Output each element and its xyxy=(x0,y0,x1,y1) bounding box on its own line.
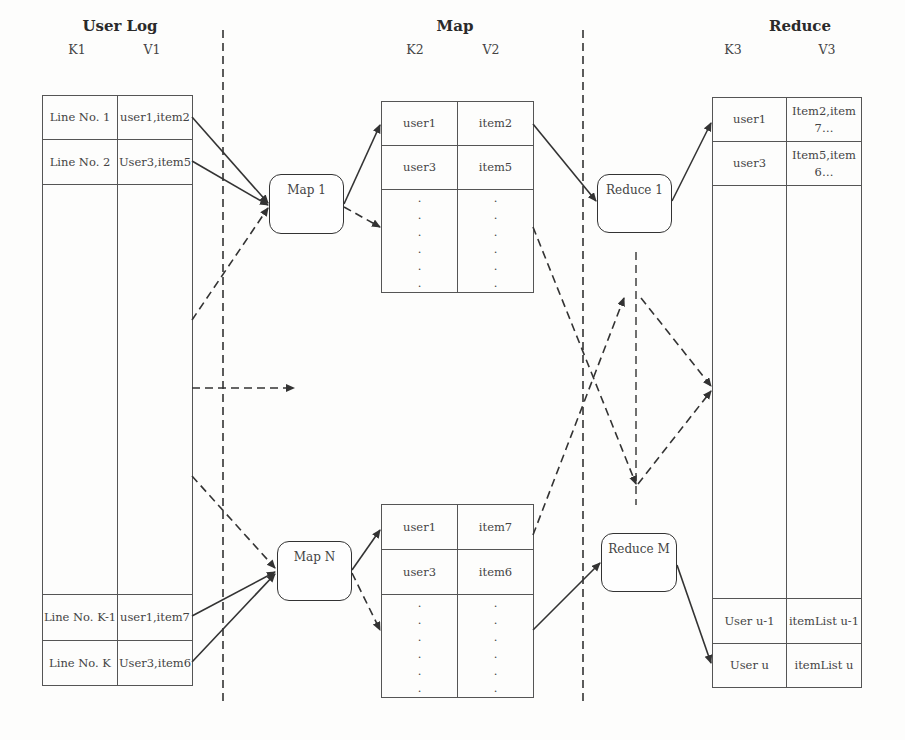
v1-cell: user1,item2 xyxy=(118,96,193,140)
reduce-table: user1 Item2,item7… user3 Item5,item6… Us… xyxy=(712,97,862,688)
k3-header: K3 xyxy=(718,42,748,57)
k1-cell: Line No. K xyxy=(43,641,118,686)
k2-cell: user1 xyxy=(382,505,458,550)
table-row-empty xyxy=(713,186,862,599)
table-row: User u-1 itemList u-1 xyxy=(713,599,862,644)
map-title: Map xyxy=(415,17,495,35)
ellipsis: . . . . . . xyxy=(382,595,458,698)
v1-header: V1 xyxy=(137,42,167,57)
v3-header: V3 xyxy=(812,42,842,57)
v2-cell: item2 xyxy=(458,102,534,146)
table-row: user3 Item5,item6… xyxy=(713,142,862,186)
map-n-label: Map N xyxy=(294,550,335,564)
table-row: user1 Item2,item7… xyxy=(713,98,862,142)
v2-cell: item6 xyxy=(458,550,534,595)
k3-cell: User u-1 xyxy=(713,599,787,644)
v1-cell: user1,item7 xyxy=(118,595,193,641)
user-log-table: Line No. 1 user1,item2 Line No. 2 User3,… xyxy=(42,95,193,686)
v2-cell: item7 xyxy=(458,505,534,550)
v1-cell: User3,item5 xyxy=(118,140,193,185)
k2-cell: user3 xyxy=(382,146,458,190)
k3-cell: user3 xyxy=(713,142,787,186)
v1-cell: User3,item6 xyxy=(118,641,193,686)
map-1-label: Map 1 xyxy=(287,183,326,197)
ellipsis: . . . . . . xyxy=(458,595,534,698)
reduce-1-node: Reduce 1 xyxy=(597,174,672,233)
reduce-1-label: Reduce 1 xyxy=(606,183,663,197)
ellipsis: . . . . . . xyxy=(458,190,534,293)
k1-header: K1 xyxy=(62,42,92,57)
v3-cell: Item2,item7… xyxy=(787,98,862,142)
map-1-node: Map 1 xyxy=(269,174,344,234)
table-row: user3 item6 xyxy=(382,550,534,595)
reduce-m-label: Reduce M xyxy=(608,542,669,556)
k2-header: K2 xyxy=(400,42,430,57)
table-row-ellipsis: . . . . . . . . . . . . xyxy=(382,595,534,698)
user-log-title: User Log xyxy=(70,17,170,35)
table-row: Line No. K-1 user1,item7 xyxy=(43,595,193,641)
k2-cell: user1 xyxy=(382,102,458,146)
table-row: user1 item2 xyxy=(382,102,534,146)
table-row: user1 item7 xyxy=(382,505,534,550)
k1-cell: Line No. 2 xyxy=(43,140,118,185)
table-row: Line No. 1 user1,item2 xyxy=(43,96,193,140)
v3-cell: Item5,item6… xyxy=(787,142,862,186)
map-n-node: Map N xyxy=(277,541,352,601)
table-row: User u itemList u xyxy=(713,644,862,688)
v2-cell: item5 xyxy=(458,146,534,190)
table-row-empty xyxy=(43,185,193,595)
table-row-ellipsis: . . . . . . . . . . . . xyxy=(382,190,534,293)
v3-cell: itemList u-1 xyxy=(787,599,862,644)
k2-cell: user3 xyxy=(382,550,458,595)
table-row: Line No. 2 User3,item5 xyxy=(43,140,193,185)
v3-cell: itemList u xyxy=(787,644,862,688)
map-table-1: user1 item2 user3 item5 . . . . . . . . … xyxy=(381,101,534,293)
reduce-m-node: Reduce M xyxy=(601,533,677,592)
v2-header: V2 xyxy=(476,42,506,57)
map-table-n: user1 item7 user3 item6 . . . . . . . . … xyxy=(381,504,534,698)
table-row: Line No. K User3,item6 xyxy=(43,641,193,686)
table-row: user3 item5 xyxy=(382,146,534,190)
ellipsis: . . . . . . xyxy=(382,190,458,293)
k1-cell: Line No. K-1 xyxy=(43,595,118,641)
reduce-title: Reduce xyxy=(750,17,850,35)
k3-cell: user1 xyxy=(713,98,787,142)
k3-cell: User u xyxy=(713,644,787,688)
k1-cell: Line No. 1 xyxy=(43,96,118,140)
